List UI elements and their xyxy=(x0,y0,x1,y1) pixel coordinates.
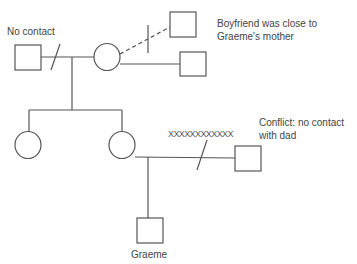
boyfriend-square xyxy=(170,12,196,37)
grandmother-circle xyxy=(94,44,120,71)
conflict-note-line1: Conflict: no contact xyxy=(259,117,344,130)
boyfriend-note-line1: Boyfriend was close to xyxy=(217,18,317,31)
conflict-note: Conflict: no contact with dad xyxy=(259,117,344,142)
grandfather-square xyxy=(15,45,41,70)
graeme-square xyxy=(137,218,163,243)
boyfriend-note-line2: Graeme's mother xyxy=(217,31,317,44)
boyfriend-dashed-line xyxy=(120,27,170,54)
parents-separation-slash xyxy=(197,140,207,170)
conflict-note-line2: with dad xyxy=(259,130,344,143)
parents-marriage-line xyxy=(135,157,235,158)
conflict-marker: XXXXXXXXXXXX xyxy=(168,129,233,139)
mother-circle xyxy=(109,132,135,159)
no-contact-label: No contact xyxy=(7,26,55,38)
boyfriend-note: Boyfriend was close to Graeme's mother xyxy=(217,18,317,43)
dad-square xyxy=(235,146,261,171)
aunt-circle xyxy=(15,132,41,159)
grandmother-partner-square xyxy=(180,52,206,76)
graeme-label: Graeme xyxy=(131,249,167,261)
